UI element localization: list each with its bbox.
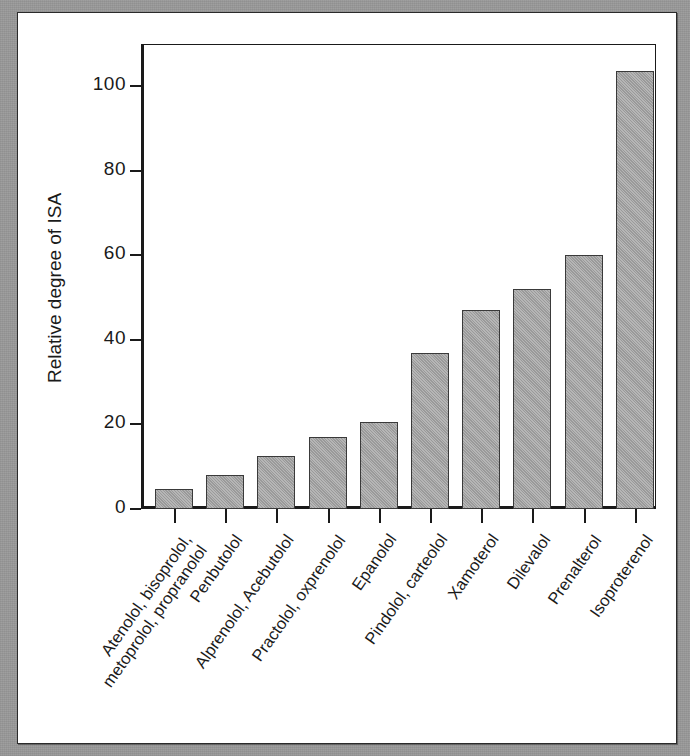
y-tick-label-80: 80 [80,158,126,180]
bar-7 [462,310,500,509]
bar-5 [360,422,398,509]
y-axis-title: Relative degree of ISA [44,163,66,413]
x-tick-1 [174,509,176,523]
x-tick-10 [635,509,637,523]
bar-4 [309,437,347,509]
x-tick-label-7: Xamoterol [444,531,503,604]
x-tick-label-line: Xamoterol [444,531,503,604]
y-tick-40 [130,339,141,341]
x-tick-8 [532,509,534,523]
bar-6 [411,353,449,509]
y-tick-label-20: 20 [80,411,126,433]
x-tick-6 [430,509,432,523]
x-tick-label-line: Practolol, oxprenolol [248,531,350,665]
bars-layer [141,44,656,509]
x-tick-label-line: Epanolol [348,531,401,595]
bar-chart: Relative degree of ISA 020406080100 Aten… [18,13,676,743]
x-tick-label-line: Atenolol, bisoprolol, [83,531,196,680]
bar-2 [206,475,244,509]
y-tick-label-0: 0 [80,496,126,518]
y-tick-0 [130,508,141,510]
bar-1 [155,489,193,509]
x-tick-label-5: Epanolol [348,531,401,595]
x-tick-9 [584,509,586,523]
x-tick-label-1: Atenolol, bisoprolol,metoprolol, propran… [83,531,212,692]
bar-3 [257,456,295,509]
figure-card: Relative degree of ISA 020406080100 Aten… [17,12,677,744]
y-tick-label-100: 100 [80,73,126,95]
bar-9 [565,255,603,509]
y-tick-60 [130,254,141,256]
x-tick-5 [379,509,381,523]
bar-8 [513,289,551,509]
x-tick-label-line: Dilevalol [503,531,555,593]
y-tick-label-40: 40 [80,327,126,349]
x-tick-7 [481,509,483,523]
y-tick-20 [130,423,141,425]
x-tick-2 [225,509,227,523]
x-tick-3 [276,509,278,523]
y-tick-80 [130,170,141,172]
x-tick-label-4: Practolol, oxprenolol [248,531,350,665]
y-tick-label-60: 60 [80,242,126,264]
x-tick-label-8: Dilevalol [503,531,555,593]
bar-10 [616,71,654,509]
y-tick-100 [130,85,141,87]
x-tick-4 [328,509,330,523]
